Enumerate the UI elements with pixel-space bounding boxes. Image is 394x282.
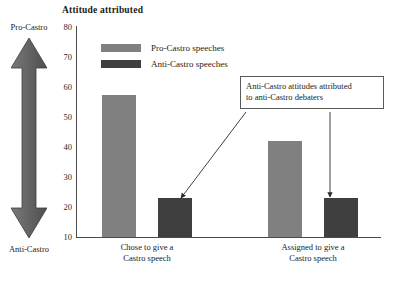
x-group-label-assigned: Assigned to give a Castro speech <box>250 242 376 263</box>
attitude-scale-top-label: Pro-Castro <box>0 22 58 32</box>
y-tick-50: 50 <box>64 112 73 122</box>
bar-chose-anti-castro[interactable] <box>158 198 192 237</box>
y-tick-40: 40 <box>64 142 73 152</box>
double-headed-arrow-icon <box>11 38 47 238</box>
chart-title: Attitude attributed <box>62 5 143 15</box>
x-group-label-assigned-line1: Assigned to give a <box>250 242 376 253</box>
x-group-label-chose-line1: Chose to give a <box>84 242 210 253</box>
legend-swatch-pro-castro <box>101 44 141 52</box>
y-tick-70: 70 <box>64 52 73 62</box>
legend-swatch-anti-castro <box>101 60 141 68</box>
x-axis-line <box>76 237 381 238</box>
legend-item-anti-castro[interactable]: Anti-Castro speeches <box>101 56 261 72</box>
x-group-label-assigned-line2: Castro speech <box>250 253 376 264</box>
attitude-scale-bottom-label: Anti-Castro <box>0 244 58 254</box>
x-group-label-chose-line2: Castro speech <box>84 253 210 264</box>
y-tick-80: 80 <box>64 22 73 32</box>
bar-chose-pro-castro[interactable] <box>102 95 136 237</box>
legend-label-anti-castro: Anti-Castro speeches <box>151 59 228 69</box>
bar-assigned-pro-castro[interactable] <box>268 141 302 238</box>
annotation-callout-line1: Anti-Castro attitudes attributed <box>246 81 378 92</box>
annotation-callout: Anti-Castro attitudes attributed to anti… <box>240 76 384 109</box>
legend-label-pro-castro: Pro-Castro speeches <box>151 43 224 53</box>
y-axis-line <box>76 26 77 238</box>
y-tick-10: 10 <box>64 232 73 242</box>
legend: Pro-Castro speeches Anti-Castro speeches <box>101 40 261 72</box>
chart-figure: Attitude attributed Pro-Castro Anti-Cast… <box>0 0 394 282</box>
legend-item-pro-castro[interactable]: Pro-Castro speeches <box>101 40 261 56</box>
x-group-label-chose: Chose to give a Castro speech <box>84 242 210 263</box>
y-tick-60: 60 <box>64 82 73 92</box>
y-tick-20: 20 <box>64 202 73 212</box>
y-tick-30: 30 <box>64 172 73 182</box>
attitude-scale: Pro-Castro Anti-Castro <box>0 22 58 254</box>
bar-assigned-anti-castro[interactable] <box>324 198 358 237</box>
annotation-callout-line2: to anti-Castro debaters <box>246 92 378 103</box>
